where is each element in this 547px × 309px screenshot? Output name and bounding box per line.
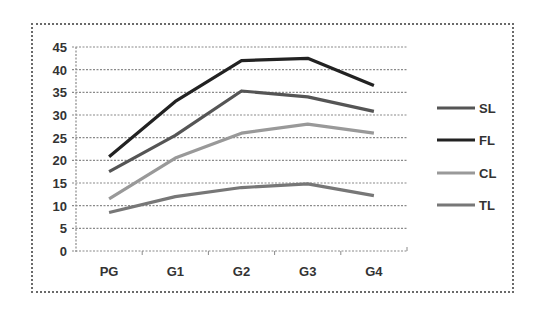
- y-tick-label: 45: [53, 40, 67, 55]
- x-tick-label: PG: [100, 264, 119, 279]
- series-line-tl: [109, 184, 374, 213]
- y-tick-label: 0: [60, 244, 67, 259]
- y-axis: 051015202530354045: [53, 40, 76, 259]
- y-tick-label: 20: [53, 153, 67, 168]
- y-tick-label: 5: [60, 221, 67, 236]
- legend-label: SL: [479, 101, 496, 116]
- y-tick-label: 25: [53, 131, 67, 146]
- legend-label: FL: [479, 133, 495, 148]
- series-line-sl: [109, 91, 374, 172]
- series-line-fl: [109, 58, 374, 156]
- legend-item-sl: SL: [437, 101, 496, 116]
- legend-label: CL: [479, 166, 496, 181]
- y-tick-label: 40: [53, 63, 67, 78]
- y-tick-label: 15: [53, 176, 67, 191]
- y-tick-label: 30: [53, 108, 67, 123]
- legend-item-tl: TL: [437, 198, 495, 213]
- y-tick-label: 35: [53, 85, 67, 100]
- x-tick-label: G3: [299, 264, 316, 279]
- x-tick-label: G4: [365, 264, 383, 279]
- x-tick-label: G2: [233, 264, 250, 279]
- series-lines: [109, 58, 374, 212]
- line-chart: 051015202530354045 PGG1G2G3G4 SLFLCLTL: [0, 0, 547, 309]
- legend-item-cl: CL: [437, 166, 496, 181]
- legend-label: TL: [479, 198, 495, 213]
- legend-item-fl: FL: [437, 133, 495, 148]
- x-tick-label: G1: [167, 264, 184, 279]
- legend: SLFLCLTL: [437, 101, 496, 213]
- y-tick-label: 10: [53, 199, 67, 214]
- x-axis: PGG1G2G3G4: [100, 247, 407, 279]
